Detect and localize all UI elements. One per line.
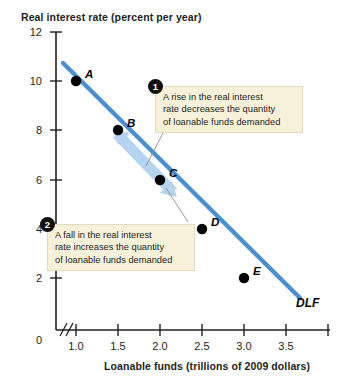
y-tick-label-8: 8 (22, 124, 42, 136)
annotation-2-line-1: A fall in the real interest (55, 229, 188, 241)
y-tick-label-0: 0 (22, 334, 42, 346)
x-tick-label-2-5: 2.5 (188, 340, 216, 352)
data-point-a (71, 76, 81, 86)
chart-plot-area (0, 0, 338, 382)
point-label-e: E (253, 265, 261, 277)
point-label-b: B (127, 117, 135, 129)
data-point-b (113, 125, 123, 135)
x-tick-label-2-0: 2.0 (146, 340, 174, 352)
loanable-funds-demand-chart: Real interest rate (percent per year) (0, 0, 338, 382)
y-tick-label-4: 4 (22, 223, 42, 235)
point-label-c: C (169, 167, 177, 179)
data-point-d (197, 224, 207, 234)
y-tick-label-10: 10 (22, 75, 42, 87)
annotation-box-2: A fall in the real interest rate increas… (47, 224, 195, 271)
y-tick-label-6: 6 (22, 174, 42, 186)
annotation-badge-2: 2 (40, 217, 55, 232)
annotation-badge-1: 1 (148, 79, 163, 94)
point-label-d: D (211, 216, 219, 228)
annotation-1-line-1: A rise in the real interest (163, 91, 296, 103)
x-tick-label-1-0: 1.0 (62, 340, 90, 352)
annotation-box-1: A rise in the real interest rate decreas… (155, 86, 303, 133)
annotation-1-line-3: of loanable funds demanded (163, 116, 296, 128)
point-label-a: A (85, 68, 93, 80)
y-tick-label-12: 12 (22, 26, 42, 38)
annotation-2-line-3: of loanable funds demanded (55, 254, 188, 266)
curve-label-dlf: DLF (296, 296, 319, 310)
data-point-e (239, 273, 249, 283)
y-tick-label-2: 2 (22, 272, 42, 284)
movement-arrow-band (113, 129, 177, 197)
x-tick-label-1-5: 1.5 (104, 340, 132, 352)
x-tick-label-3-0: 3.0 (230, 340, 258, 352)
annotation-1-line-2: rate decreases the quantity (163, 103, 296, 115)
annotation-2-line-2: rate increases the quantity (55, 241, 188, 253)
data-point-c (155, 175, 165, 185)
x-axis-title: Loanable funds (trillions of 2009 dollar… (104, 360, 310, 372)
x-tick-label-3-5: 3.5 (272, 340, 300, 352)
